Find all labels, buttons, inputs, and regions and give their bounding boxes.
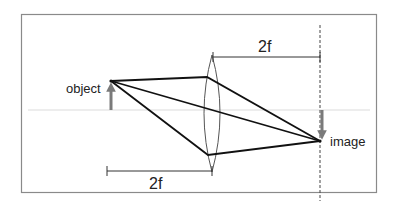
bottom-distance-label: 2f bbox=[149, 175, 163, 192]
image-label: image bbox=[330, 134, 365, 149]
thin-lens-diagram: object image 2f 2f bbox=[0, 0, 397, 223]
ray-middle bbox=[111, 81, 320, 141]
object-label: object bbox=[66, 81, 101, 96]
image-point bbox=[318, 139, 321, 142]
ray-bottom bbox=[111, 81, 320, 155]
diagram-frame bbox=[22, 15, 377, 193]
light-rays bbox=[111, 77, 320, 155]
object-point bbox=[109, 79, 112, 82]
top-distance-label: 2f bbox=[258, 38, 272, 55]
